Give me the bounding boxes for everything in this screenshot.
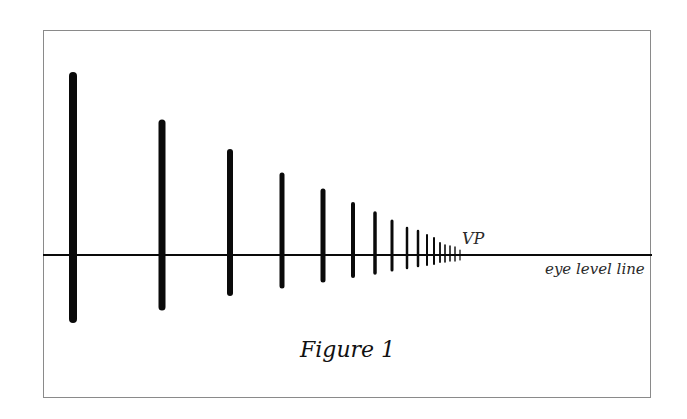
figure-caption: Figure 1 [300, 337, 395, 362]
eye-level-line-label: eye level line [545, 260, 645, 278]
vanishing-point-label: VP [462, 229, 484, 248]
receding-posts [73, 76, 460, 319]
